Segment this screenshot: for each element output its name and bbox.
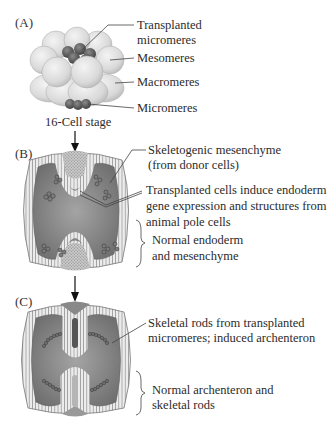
label-macromeres: Macromeres [137,75,199,90]
label-skeletogenic-mesenchyme-line2: (from donor cells) [148,158,239,173]
panel-b-letter: (B) [15,146,32,162]
label-normal-archenteron-line2: skeletal rods [152,398,215,413]
label-normal-archenteron-line1: Normal archenteron and [152,383,273,398]
label-micromeres: Micromeres [137,101,197,116]
label-normal-endoderm-line1: Normal endoderm [152,233,243,248]
arrow-b-to-c [71,276,79,302]
label-skeletal-rods-line1: Skeletal rods from transplanted [148,316,305,331]
label-induce-line1: Transplanted cells induce endoderm [146,183,326,198]
panel-c-letter: (C) [15,294,32,310]
label-transplanted-micromeres-line1: Transplanted [137,18,202,33]
panel-a-letter: (A) [15,15,33,31]
label-skeletogenic-mesenchyme-line1: Skeletogenic mesenchyme [148,143,281,158]
arrow-a-to-b [71,131,79,152]
label-mesomeres: Mesomeres [137,51,195,66]
label-transplanted-micromeres-line2: micromeres [137,33,196,48]
caption-16-cell-stage: 16-Cell stage [45,115,111,130]
label-induce-line2: gene expression and structures from [146,199,327,214]
sixteen-cell-embryo [30,27,124,110]
label-skeletal-rods-line2: micromeres; induced archenteron [148,331,315,346]
label-induce-line3: animal pole cells [146,215,231,230]
embryo-c [22,302,131,417]
embryo-b [24,151,129,271]
label-normal-endoderm-line2: and mesenchyme [152,249,238,264]
